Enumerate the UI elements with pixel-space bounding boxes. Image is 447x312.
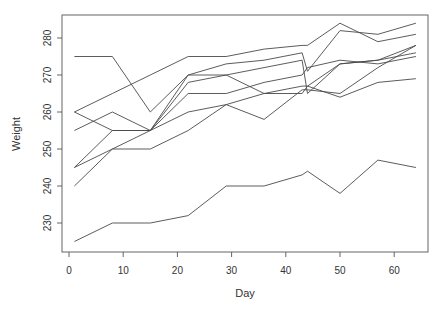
x-tick-label: 60 xyxy=(389,265,401,276)
series-line-3 xyxy=(74,79,416,168)
y-tick-label: 250 xyxy=(42,140,53,157)
y-tick-label: 230 xyxy=(42,214,53,231)
x-tick-label: 50 xyxy=(334,265,346,276)
series-line-1 xyxy=(74,45,416,186)
line-chart: 0102030405060 230240250260270280 Day Wei… xyxy=(0,0,447,312)
series-line-2 xyxy=(74,160,416,241)
x-tick-label: 10 xyxy=(118,265,130,276)
series-lines xyxy=(74,23,416,241)
x-axis-label: Day xyxy=(235,287,255,299)
series-line-4 xyxy=(74,57,416,131)
x-tick-label: 40 xyxy=(280,265,292,276)
y-tick-label: 260 xyxy=(42,103,53,120)
y-axis: 230240250260270280 xyxy=(42,29,62,231)
y-tick-label: 280 xyxy=(42,29,53,46)
x-axis: 0102030405060 xyxy=(66,252,400,276)
series-line-5 xyxy=(74,53,416,131)
plot-area-border xyxy=(62,15,428,252)
x-tick-label: 0 xyxy=(66,265,72,276)
y-axis-label: Weight xyxy=(10,117,22,151)
x-tick-label: 20 xyxy=(172,265,184,276)
y-tick-label: 240 xyxy=(42,177,53,194)
y-tick-label: 270 xyxy=(42,66,53,83)
x-tick-label: 30 xyxy=(226,265,238,276)
